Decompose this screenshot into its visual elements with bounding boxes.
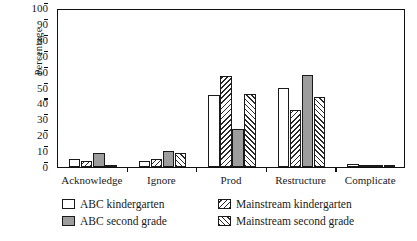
x-axis-tick-mark	[266, 168, 267, 172]
legend-label: Mainstream second grade	[236, 215, 354, 227]
y-axis-tick-label: 50	[37, 83, 48, 94]
y-axis-tick-label: 20	[37, 130, 48, 141]
legend-swatch-open-icon	[62, 199, 75, 209]
y-axis-tick-mark	[44, 146, 48, 147]
bar	[290, 110, 302, 167]
y-axis-tick-label: 10	[37, 146, 48, 157]
bar	[302, 75, 314, 167]
y-axis-tick: 10	[0, 152, 57, 153]
x-axis-tick-mark	[196, 168, 197, 172]
bar-group	[69, 10, 117, 167]
y-axis-tick: 80	[0, 41, 57, 42]
y-axis-tick-label: 80	[37, 35, 48, 46]
y-axis-tick-label: 30	[37, 114, 48, 125]
legend-label: ABC kindergarten	[80, 198, 164, 210]
y-axis-tick: 60	[0, 73, 57, 74]
y-axis-tick-mark	[44, 162, 48, 163]
legend-swatch-solid-gray-icon	[62, 216, 75, 226]
bar-group	[139, 10, 187, 167]
x-axis-labels: AcknowledgeIgnoreProdRestructureComplica…	[57, 174, 405, 190]
bar	[151, 159, 163, 167]
bar	[105, 165, 117, 167]
y-axis-tick-mark	[44, 35, 48, 36]
y-axis-tick-label: 0	[43, 162, 49, 173]
legend-column-one: ABC kindergarten ABC second grade	[62, 196, 167, 230]
y-axis-tick-label: 40	[37, 98, 48, 109]
y-axis-tick: 70	[0, 57, 57, 58]
legend-swatch-forwardslash-hatch-icon	[218, 216, 231, 226]
bar	[278, 88, 290, 168]
bar	[314, 97, 326, 167]
x-axis-category-label: Prod	[221, 174, 242, 187]
y-axis-tick: 0	[0, 168, 57, 169]
bar	[232, 129, 244, 167]
plot-area	[57, 9, 405, 168]
y-axis-tick-label: 100	[32, 3, 49, 14]
y-axis-tick-mark	[44, 67, 48, 68]
y-axis-tick-mark	[44, 51, 48, 52]
x-axis-category-label: Complicate	[345, 174, 396, 187]
bar	[175, 153, 187, 167]
y-axis-tick-label: 60	[37, 67, 48, 78]
y-axis-tick-label: 70	[37, 51, 48, 62]
bar	[163, 151, 175, 167]
y-axis-tick-mark	[44, 114, 48, 115]
y-axis-tick-mark	[44, 3, 48, 4]
bar	[208, 95, 220, 167]
bar	[347, 164, 359, 167]
legend-item: Mainstream second grade	[218, 213, 354, 228]
legend-swatch-backslash-hatch-icon	[218, 199, 231, 209]
y-axis-tick: 50	[0, 89, 57, 90]
bar-chart-figure: Percentage 0102030405060708090100 Acknow…	[0, 0, 417, 241]
y-axis-tick: 90	[0, 25, 57, 26]
bar	[384, 165, 396, 167]
bar-group	[208, 10, 256, 167]
y-axis-tick-mark	[44, 19, 48, 20]
bar	[139, 161, 151, 167]
legend-label: ABC second grade	[80, 215, 167, 227]
y-axis-tick-label: 90	[37, 19, 48, 30]
x-axis-category-label: Acknowledge	[61, 174, 122, 187]
legend-column-two: Mainstream kindergarten Mainstream secon…	[218, 196, 354, 230]
bar	[81, 161, 93, 167]
chart-legend: ABC kindergarten ABC second grade Mainst…	[62, 196, 407, 236]
y-axis-tick: 40	[0, 104, 57, 105]
bar-group	[347, 10, 395, 167]
y-axis-tick: 100	[0, 9, 57, 10]
y-axis-tick-mark	[44, 130, 48, 131]
bar	[371, 165, 383, 167]
x-axis-category-label: Ignore	[147, 174, 176, 187]
y-axis-tick: 20	[0, 136, 57, 137]
bar	[244, 94, 256, 167]
x-axis-category-label: Restructure	[275, 174, 326, 187]
bar	[220, 76, 232, 167]
bar-group	[278, 10, 326, 167]
bar	[359, 165, 371, 167]
y-axis-ticks: 0102030405060708090100	[0, 0, 57, 168]
y-axis-tick-mark	[44, 98, 48, 99]
x-axis-tick-mark	[127, 168, 128, 172]
legend-item: ABC second grade	[62, 213, 167, 228]
x-axis-tick-mark	[335, 168, 336, 172]
y-axis-tick: 30	[0, 120, 57, 121]
bar	[69, 159, 81, 167]
y-axis-tick-mark	[44, 83, 48, 84]
legend-label: Mainstream kindergarten	[236, 198, 352, 210]
legend-item: Mainstream kindergarten	[218, 196, 354, 211]
bar	[93, 153, 105, 167]
legend-item: ABC kindergarten	[62, 196, 167, 211]
